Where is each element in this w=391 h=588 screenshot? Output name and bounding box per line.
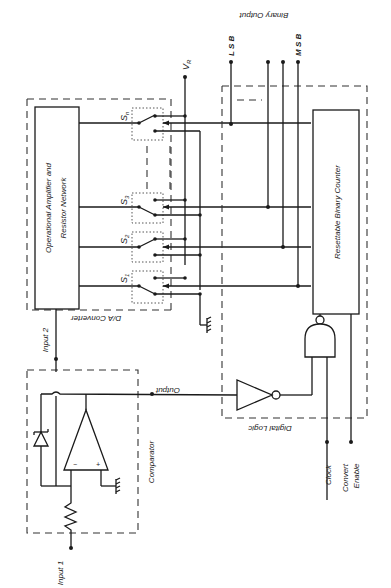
inverter-gate bbox=[237, 380, 312, 410]
svg-text:+: + bbox=[96, 461, 100, 468]
opamp-network-label-2: Resistor Network bbox=[59, 177, 68, 239]
msb-label: M S B bbox=[294, 34, 303, 56]
diode-icon bbox=[34, 394, 48, 486]
resistor-icon bbox=[65, 486, 76, 548]
svg-text:S3: S3 bbox=[119, 195, 130, 205]
dac-group-label: D/A Converter bbox=[70, 314, 121, 323]
enable-label: Enable bbox=[352, 463, 361, 488]
counter-label: Resettable Binary Counter bbox=[333, 165, 342, 259]
input1-label: Input 1 bbox=[56, 561, 65, 585]
ground-icon bbox=[116, 478, 120, 494]
adc-circuit-diagram: D/A Converter Operational Amplifier and … bbox=[0, 0, 391, 588]
svg-text:S1: S1 bbox=[119, 274, 130, 283]
svg-text:−: − bbox=[73, 461, 77, 468]
switch-sn: Sn bbox=[119, 108, 163, 140]
ground-icon bbox=[200, 294, 211, 333]
svg-text:Sn: Sn bbox=[119, 111, 130, 121]
switch-s3: S3 bbox=[119, 193, 163, 223]
convert-label: Convert bbox=[341, 463, 350, 492]
clock-label: Clock bbox=[324, 464, 333, 485]
lsb-label: L S B bbox=[227, 35, 236, 56]
svg-text:S2: S2 bbox=[119, 234, 130, 244]
comparator-group-label: Comparator bbox=[147, 441, 156, 484]
vr-label: VR bbox=[181, 59, 192, 70]
comparator-opamp: − + bbox=[64, 394, 116, 486]
binary-output-label: Binary Output bbox=[239, 11, 289, 20]
opamp-network-label-1: Operational Amplifier and bbox=[44, 162, 53, 253]
opamp-resistor-network-block bbox=[35, 107, 79, 309]
digital-logic-group-label: Digital Logic bbox=[248, 424, 292, 433]
switch-s1: S1 bbox=[119, 271, 163, 303]
output-label: Output bbox=[155, 386, 180, 395]
input2-label: Input 2 bbox=[41, 327, 50, 352]
